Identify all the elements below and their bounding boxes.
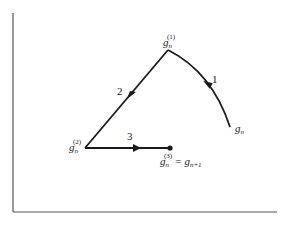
point-start-label: gn xyxy=(235,122,245,136)
step-3-arrow-icon xyxy=(133,144,141,152)
point-1-label: gn(1) xyxy=(163,33,176,50)
step-2-label: 2 xyxy=(117,85,123,97)
point-3-label: gn(3)=gn+1 xyxy=(160,152,202,169)
step-1-curve xyxy=(168,50,230,127)
point-2-label: gn(2) xyxy=(69,138,82,155)
step-1-label: 1 xyxy=(212,73,218,85)
step-3-label: 3 xyxy=(127,130,133,142)
step-2-arrow-icon xyxy=(127,91,136,99)
diagram-canvas: 1 2 3 gn gn(1) gn(2) gn(3)=gn+1 xyxy=(0,0,287,226)
endpoint-dot xyxy=(167,145,172,150)
